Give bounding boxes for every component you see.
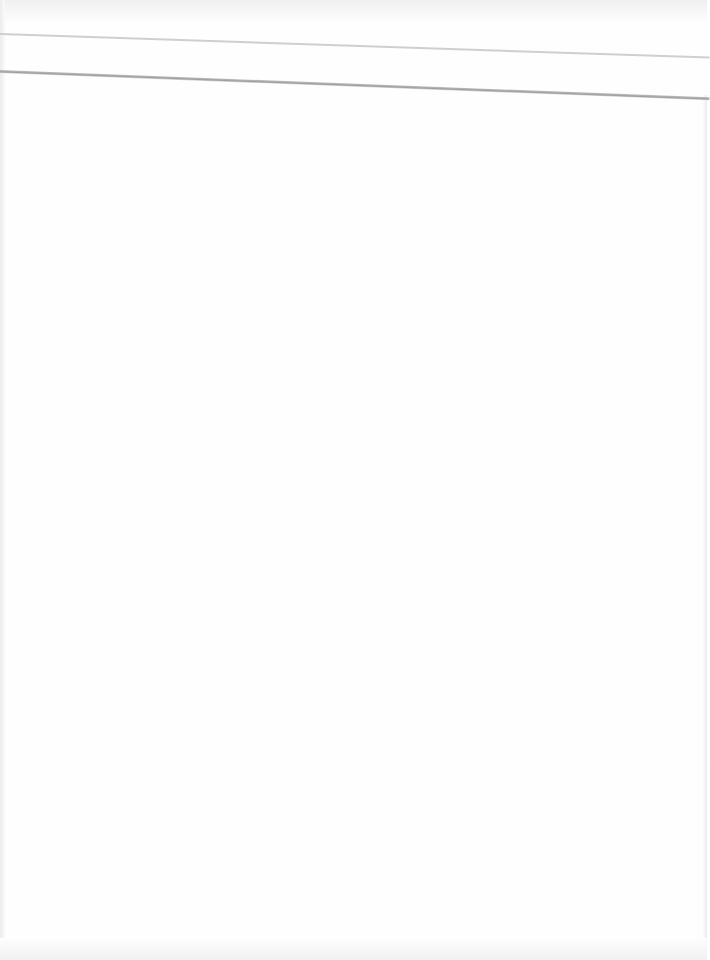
header-rule-thick	[0, 70, 709, 100]
scan-right-edge	[703, 95, 707, 960]
scan-left-edge	[0, 0, 5, 960]
scan-top-shadow	[0, 0, 707, 22]
scan-bottom-shadow	[0, 938, 707, 960]
header-rule-thin	[0, 33, 710, 59]
